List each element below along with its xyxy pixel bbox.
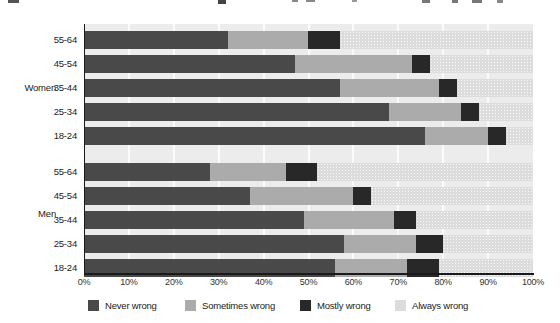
bar-row: 55-64 — [0, 31, 533, 49]
group-label-men: Men — [0, 207, 56, 221]
age-label: 18-24 — [0, 259, 84, 277]
bar-segment-never-wrong — [84, 211, 304, 229]
bar-segment-sometimes-wrong — [340, 79, 439, 97]
bar-segment-mostly-wrong — [439, 79, 457, 97]
legend-item: Never wrong — [88, 300, 185, 311]
x-tick-label: 0% — [62, 277, 106, 287]
bar-track — [84, 187, 533, 205]
bar-segment-always-wrong — [430, 55, 533, 73]
bar-segment-sometimes-wrong — [344, 235, 416, 253]
bar-segment-mostly-wrong — [394, 211, 416, 229]
bar-track — [84, 31, 533, 49]
bar-segment-always-wrong — [371, 187, 533, 205]
bar-segment-mostly-wrong — [308, 31, 339, 49]
legend-item: Sometimes wrong — [185, 300, 300, 311]
bar-segment-always-wrong — [457, 79, 533, 97]
bar-segment-never-wrong — [84, 235, 344, 253]
bar-track — [84, 55, 533, 73]
cropped-title-fragment — [497, 0, 503, 3]
cropped-title-fragment — [452, 0, 458, 3]
age-label: 18-24 — [0, 127, 84, 145]
cropped-title-fragment — [8, 0, 19, 3]
bar-segment-mostly-wrong — [461, 103, 479, 121]
legend-item: Always wrong — [395, 300, 468, 311]
x-tick-label: 30% — [197, 277, 241, 287]
legend-swatch-always-wrong — [395, 300, 406, 311]
bar-segment-mostly-wrong — [286, 163, 317, 181]
bar-segment-always-wrong — [340, 31, 533, 49]
bar-row: 35-44 — [0, 211, 533, 229]
bar-segment-sometimes-wrong — [425, 127, 488, 145]
bar-segment-sometimes-wrong — [295, 55, 412, 73]
cropped-title-fragment — [352, 0, 357, 2]
bar-track — [84, 79, 533, 97]
x-tick-label: 40% — [242, 277, 286, 287]
bar-row: 18-24 — [0, 127, 533, 145]
age-label: 45-54 — [0, 187, 84, 205]
age-label: 25-34 — [0, 235, 84, 253]
bar-segment-sometimes-wrong — [250, 187, 353, 205]
bar-segment-mostly-wrong — [416, 235, 443, 253]
age-label: 25-34 — [0, 103, 84, 121]
bar-segment-mostly-wrong — [353, 187, 371, 205]
bar-segment-always-wrong — [443, 235, 533, 253]
bar-segment-sometimes-wrong — [304, 211, 394, 229]
bar-segment-always-wrong — [506, 127, 533, 145]
bar-segment-mostly-wrong — [488, 127, 506, 145]
bar-segment-never-wrong — [84, 31, 228, 49]
x-tick-label: 10% — [107, 277, 151, 287]
bar-segment-never-wrong — [84, 55, 295, 73]
bar-track — [84, 211, 533, 229]
legend-label: Always wrong — [412, 300, 468, 311]
x-tick-label: 80% — [421, 277, 465, 287]
bar-segment-always-wrong — [416, 211, 533, 229]
y-axis-line — [84, 24, 85, 273]
age-label: 55-64 — [0, 31, 84, 49]
cropped-title-fragment — [472, 0, 482, 3]
bar-segment-mostly-wrong — [412, 55, 430, 73]
cropped-title-fragment — [218, 0, 226, 4]
bar-segment-never-wrong — [84, 103, 389, 121]
group-gap — [0, 151, 533, 163]
bar-row: 35-44 — [0, 79, 533, 97]
legend: Never wrongSometimes wrongMostly wrongAl… — [88, 300, 468, 311]
bar-segment-always-wrong — [317, 163, 533, 181]
legend-label: Sometimes wrong — [202, 300, 275, 311]
bar-segment-sometimes-wrong — [228, 31, 309, 49]
bar-segment-sometimes-wrong — [210, 163, 286, 181]
bar-track — [84, 163, 533, 181]
age-label: 55-64 — [0, 163, 84, 181]
bar-segment-sometimes-wrong — [389, 103, 461, 121]
cropped-title-fragment — [422, 0, 430, 3]
bar-segment-never-wrong — [84, 79, 340, 97]
legend-item: Mostly wrong — [300, 300, 395, 311]
bar-track — [84, 235, 533, 253]
legend-label: Never wrong — [105, 300, 157, 311]
bar-row: 25-34 — [0, 235, 533, 253]
group-label-women: Women — [0, 81, 56, 95]
legend-label: Mostly wrong — [317, 300, 371, 311]
cropped-title-fragment — [306, 0, 315, 2]
bar-segment-never-wrong — [84, 187, 250, 205]
bar-rows: 55-6445-5435-4425-3418-2455-6445-5435-44… — [0, 24, 533, 277]
age-label: 45-54 — [0, 55, 84, 73]
x-tick-label: 100% — [511, 277, 555, 287]
x-tick-label: 70% — [376, 277, 420, 287]
x-axis-ticks: 0%10%20%30%40%50%60%70%80%90%100% — [0, 277, 560, 289]
x-tick-label: 60% — [331, 277, 375, 287]
x-tick-label: 20% — [152, 277, 196, 287]
bar-segment-never-wrong — [84, 163, 210, 181]
bar-row: 55-64 — [0, 163, 533, 181]
x-tick-label: 90% — [466, 277, 510, 287]
bar-row: 45-54 — [0, 55, 533, 73]
bar-row: 25-34 — [0, 103, 533, 121]
chart-figure: 55-6445-5435-4425-3418-2455-6445-5435-44… — [0, 0, 560, 323]
legend-swatch-never-wrong — [88, 300, 99, 311]
x-tick-label: 50% — [287, 277, 331, 287]
bar-row: 45-54 — [0, 187, 533, 205]
legend-swatch-sometimes-wrong — [185, 300, 196, 311]
x-axis-line — [84, 273, 534, 275]
bar-segment-never-wrong — [84, 127, 425, 145]
bar-track — [84, 127, 533, 145]
legend-swatch-mostly-wrong — [300, 300, 311, 311]
